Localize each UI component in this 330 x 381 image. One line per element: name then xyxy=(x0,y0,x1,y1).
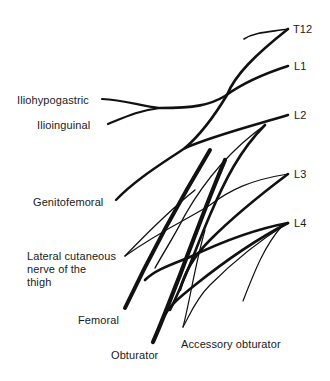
label-lateral-cutaneous: Lateral cutaneous nerve of the thigh xyxy=(27,250,116,289)
label-genitofemoral: Genitofemoral xyxy=(33,196,103,209)
nerve-lateral-cutaneous xyxy=(125,190,195,256)
label-ilioinguinal: Ilioinguinal xyxy=(37,119,90,132)
label-iliohypogastric: Iliohypogastric xyxy=(17,94,89,107)
root-label-l2: L2 xyxy=(294,109,306,122)
label-obturator: Obturator xyxy=(111,349,158,362)
label-femoral: Femoral xyxy=(78,314,119,327)
label-lateral-cutaneous-line2: nerve of the xyxy=(27,263,116,276)
root-label-l3: L3 xyxy=(294,168,306,181)
label-lateral-cutaneous-line3: thigh xyxy=(27,276,116,289)
nerve-ilioinguinal xyxy=(108,108,160,124)
root-label-l4: L4 xyxy=(294,217,306,230)
nerve-l4-femoral xyxy=(145,223,288,280)
nerve-genitofemoral xyxy=(116,148,185,200)
root-label-t12: T12 xyxy=(293,23,312,36)
lumbar-plexus-diagram xyxy=(0,0,330,381)
label-accessory-obturator: Accessory obturator xyxy=(181,338,281,351)
nerve-iliohypogastric xyxy=(102,99,160,108)
root-label-l1: L1 xyxy=(294,60,306,73)
label-lateral-cutaneous-line1: Lateral cutaneous xyxy=(27,250,116,263)
